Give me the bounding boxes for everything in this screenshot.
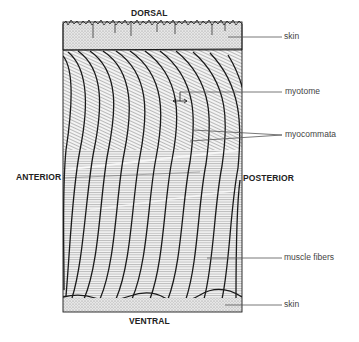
posterior-label: POSTERIOR xyxy=(243,173,294,183)
ventral-label: VENTRAL xyxy=(129,316,170,326)
skin-top-band xyxy=(63,20,242,50)
dorsal-label: DORSAL xyxy=(131,8,168,18)
muscle-region xyxy=(63,50,250,302)
label-myocommata: myocommata xyxy=(285,129,336,139)
myotome-diagram xyxy=(0,0,359,342)
label-muscle-fibers: muscle fibers xyxy=(284,252,334,262)
anterior-label: ANTERIOR xyxy=(16,172,61,182)
label-skin-bottom: skin xyxy=(284,299,299,309)
label-skin-top: skin xyxy=(284,31,299,41)
label-myotome: myotome xyxy=(285,86,320,96)
skin-bottom-band xyxy=(63,298,242,312)
